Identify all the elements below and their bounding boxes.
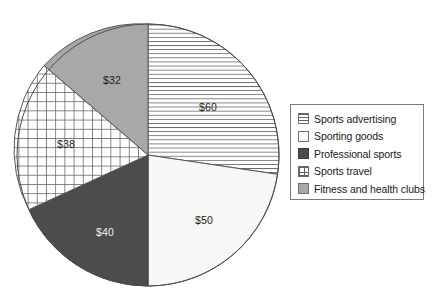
pie-chart-figure: $60 $50 $40 $38 $32 Sports advertising S…: [0, 0, 435, 308]
slice-value-label-sports-advertising: $60: [199, 101, 217, 113]
legend-label: Sporting goods: [314, 130, 383, 142]
hstripe-swatch-icon: [298, 113, 309, 124]
chart-legend: Sports advertising Sporting goods Profes…: [290, 104, 424, 200]
plain-light-swatch-icon: [298, 131, 309, 142]
legend-label: Professional sports: [314, 148, 401, 160]
legend-item-sports-travel[interactable]: Sports travel: [298, 163, 417, 180]
slice-value-label-sports-travel: $38: [57, 138, 75, 150]
dark-swatch-icon: [298, 148, 309, 159]
grid-swatch-icon: [298, 166, 309, 177]
legend-label: Fitness and health clubs: [314, 183, 425, 195]
slice-value-label-professional-sports: $40: [96, 226, 114, 238]
legend-item-professional-sports[interactable]: Professional sports: [298, 145, 417, 162]
legend-label: Sports travel: [314, 165, 372, 177]
slice-value-label-fitness-and-health-clubs: $32: [103, 74, 121, 86]
legend-item-sporting-goods[interactable]: Sporting goods: [298, 128, 417, 145]
legend-item-sports-advertising[interactable]: Sports advertising: [298, 110, 417, 127]
pie-slice-sports-advertising[interactable]: [148, 24, 279, 174]
legend-item-fitness-and-health-clubs[interactable]: Fitness and health clubs: [298, 180, 417, 197]
gray-swatch-icon: [298, 183, 309, 194]
legend-label: Sports advertising: [314, 113, 396, 125]
slice-value-label-sporting-goods: $50: [195, 214, 213, 226]
